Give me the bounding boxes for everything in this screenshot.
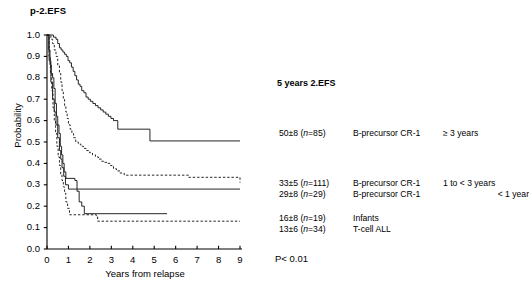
survival-curve bbox=[47, 35, 240, 189]
survival-curve bbox=[47, 35, 240, 183]
survival-curve bbox=[47, 35, 240, 141]
survival-curve bbox=[47, 35, 240, 221]
